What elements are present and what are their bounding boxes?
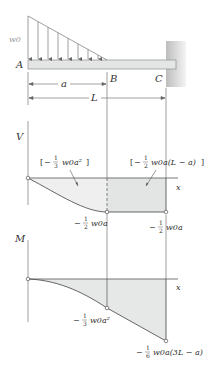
svg-text:−: −: [149, 223, 156, 232]
shear-area-right: [107, 178, 166, 212]
svg-text:2: 2: [144, 162, 148, 169]
svg-text:w0a: w0a: [166, 223, 183, 232]
svg-text:1: 1: [84, 215, 88, 222]
svg-text:2: 2: [159, 227, 163, 234]
moment-value-c: − 1 6 w0a(3L − a): [136, 344, 203, 359]
beam-section: w0 A B C a L: [9, 16, 186, 103]
beam: [28, 60, 176, 69]
shear-value-b: − 1 2 w0a: [74, 215, 108, 230]
shear-x-label: x: [176, 183, 181, 192]
svg-text:w0a²: w0a²: [62, 158, 82, 167]
svg-text:2: 2: [84, 223, 88, 230]
svg-text:w0a(L − a): w0a(L − a): [151, 158, 196, 167]
moment-x-label: x: [176, 283, 181, 292]
moment-area: [28, 279, 166, 341]
svg-text:1: 1: [54, 154, 58, 161]
beam-diagram-figure: w0 A B C a L V: [0, 0, 214, 376]
svg-text:w0a: w0a: [91, 219, 108, 228]
svg-text:1: 1: [159, 219, 163, 226]
moment-axis-label: M: [14, 233, 26, 244]
moment-diagram: M x − 1 3 w0a² − 1 6 w0a(3L − a): [14, 233, 203, 359]
point-c-label: C: [155, 73, 163, 84]
svg-text:3: 3: [54, 162, 58, 169]
shear-area-left-label: [ − 1 3 w0a² ]: [40, 154, 89, 169]
svg-text:−: −: [73, 316, 80, 325]
shear-area-right-label: [ − 1 2 w0a(L − a) ]: [130, 154, 204, 169]
svg-text:w0a²: w0a²: [90, 316, 110, 325]
svg-text:1: 1: [144, 154, 148, 161]
svg-text:1: 1: [83, 312, 87, 319]
svg-text:−: −: [136, 348, 143, 357]
distributed-load: [28, 16, 107, 60]
svg-text:3: 3: [83, 320, 87, 327]
svg-text:[: [: [40, 158, 43, 167]
svg-text:1: 1: [146, 344, 150, 351]
svg-text:6: 6: [146, 352, 150, 359]
svg-text:]: ]: [201, 158, 204, 167]
dimension-a-label: a: [61, 78, 67, 89]
load-label-w0: w0: [9, 35, 21, 44]
svg-text:−: −: [134, 158, 141, 167]
moment-value-b: − 1 3 w0a²: [73, 312, 110, 327]
svg-text:[: [: [130, 158, 133, 167]
shear-area-left: [28, 178, 107, 212]
point-a-label: A: [15, 59, 23, 70]
shear-diagram: V x [ − 1 3 w0a² ] [ − 1 2 w0a(L − a): [16, 131, 204, 234]
svg-text:]: ]: [86, 158, 89, 167]
point-b-label: B: [109, 73, 117, 84]
svg-text:−: −: [44, 158, 51, 167]
shear-axis-label: V: [16, 131, 25, 142]
dimension-l-label: L: [90, 92, 98, 103]
svg-text:−: −: [74, 219, 81, 228]
svg-text:w0a(3L − a): w0a(3L − a): [153, 348, 203, 357]
